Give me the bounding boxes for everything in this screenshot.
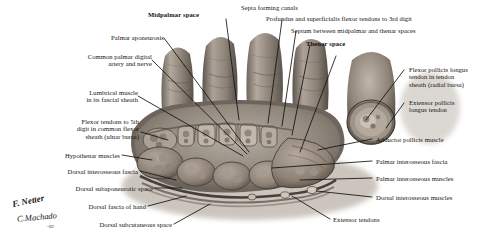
label-palmar-interosseous-muscles: Palmar interosseous muscles	[376, 175, 453, 182]
label-profundus-superficialis: Profundus and superficialis flexor tendo…	[266, 15, 412, 22]
label-palmar-aponeurosis: Palmar aponeurosis	[64, 34, 164, 41]
label-dorsal-interosseous-fascia: Dorsal interosseous fascia	[28, 168, 138, 175]
label-midpalmar-space: Midpalmar space	[148, 11, 199, 18]
label-flexor-pollicis-longus: Flexor pollicis longus tendon in tendon …	[409, 66, 468, 88]
label-dorsal-interosseous-muscles: Dorsal interosseous muscles	[376, 194, 452, 201]
label-dorsal-subaponeurotic-space: Dorsal subaponeurotic space	[32, 185, 153, 192]
label-flexor-tendons-5th-digit: Flexor tendons to 5th digit in common fl…	[34, 118, 139, 140]
signature-suffix: -93	[47, 224, 54, 229]
label-hypothenar-muscles: Hypothenar muscles	[22, 152, 120, 159]
figure-canvas: Midpalmar space Septa forming canals Pro…	[0, 0, 482, 241]
label-common-palmar-digital: Common palmar digital artery and nerve	[50, 53, 152, 68]
label-dorsal-subcutaneous-space: Dorsal subcutaneous space	[58, 221, 172, 228]
label-thenar-space: Thenar space	[306, 40, 345, 47]
label-lumbrical-muscle: Lumbrical muscle in its fascial sheath	[36, 89, 138, 104]
label-septum-between-spaces: Septum between midpalmar and thenar spac…	[291, 27, 416, 34]
label-extensor-tendons: Extensor tendons	[333, 216, 380, 223]
label-adductor-pollicis-muscle: Adductor pollicis muscle	[376, 136, 444, 143]
label-palmar-interosseous-fascia: Palmar interosseous fascia	[376, 158, 448, 165]
label-dorsal-fascia-of-hand: Dorsal fascia of hand	[58, 203, 146, 210]
label-septa-forming-canals: Septa forming canals	[241, 4, 298, 11]
label-extensor-pollicis-longus: Extensor pollicis longus tendon	[409, 99, 455, 114]
